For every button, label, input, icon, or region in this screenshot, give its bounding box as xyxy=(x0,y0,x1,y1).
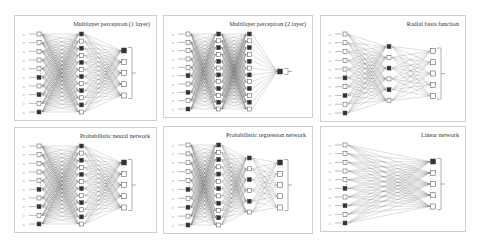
neuron-node xyxy=(217,100,221,104)
neuron-node xyxy=(80,103,84,107)
panel-linear: Linear networkoooooooooo⋮ xyxy=(320,126,466,232)
svg-text:o: o xyxy=(329,68,331,72)
neuron-node xyxy=(343,212,347,216)
neuron-node xyxy=(37,110,41,114)
neuron-node xyxy=(80,151,84,155)
neuron-node xyxy=(247,210,251,214)
svg-text:o: o xyxy=(172,206,174,210)
neuron-node xyxy=(37,49,41,53)
neuron-node xyxy=(343,41,347,45)
neuron-node xyxy=(37,222,41,226)
neuron-node xyxy=(217,165,221,169)
neuron-node xyxy=(247,73,251,77)
neuron-node xyxy=(122,160,127,165)
neuron-node xyxy=(80,32,84,36)
neuron-node xyxy=(247,93,251,97)
neuron-node xyxy=(247,32,251,36)
neuron-node xyxy=(186,40,190,44)
neuron-node xyxy=(217,216,221,220)
svg-text:o: o xyxy=(23,111,25,115)
neuron-node xyxy=(278,160,283,165)
svg-text:o: o xyxy=(329,41,331,45)
neuron-node xyxy=(217,73,221,77)
svg-text:o: o xyxy=(172,179,174,183)
neuron-node xyxy=(217,208,221,212)
svg-text:o: o xyxy=(172,215,174,219)
svg-text:o: o xyxy=(23,171,25,175)
neuron-node xyxy=(186,152,190,156)
neuron-node xyxy=(80,187,84,191)
svg-text:o: o xyxy=(172,83,174,87)
svg-text:o: o xyxy=(23,214,25,218)
neuron-node xyxy=(80,75,84,79)
svg-text:o: o xyxy=(329,187,331,191)
neuron-node xyxy=(278,194,283,199)
svg-text:o: o xyxy=(329,76,331,80)
neuron-node xyxy=(122,205,127,210)
neuron-node xyxy=(37,144,41,148)
neuron-node xyxy=(343,67,347,71)
svg-text:o: o xyxy=(23,67,25,71)
neuron-node xyxy=(186,161,190,165)
svg-text:o: o xyxy=(172,188,174,192)
neuron-node xyxy=(247,87,251,91)
svg-text:o: o xyxy=(23,41,25,45)
neuron-node xyxy=(217,194,221,198)
neuron-node xyxy=(387,55,391,59)
neuron-node xyxy=(186,196,190,200)
neuron-node xyxy=(186,82,190,86)
neuron-node xyxy=(122,82,127,87)
neuron-node xyxy=(80,194,84,198)
neuron-node xyxy=(186,205,190,209)
svg-text:o: o xyxy=(172,41,174,45)
neuron-node xyxy=(80,53,84,57)
neuron-node xyxy=(122,59,127,64)
neuron-node xyxy=(247,80,251,84)
panel-rbf: Radial basis functionoooooooooo⋮ xyxy=(320,15,466,122)
svg-text:o: o xyxy=(23,223,25,227)
neuron-node xyxy=(247,39,251,43)
neuron-node xyxy=(80,144,84,148)
neuron-node xyxy=(122,93,127,98)
svg-text:o: o xyxy=(23,59,25,63)
neuron-node xyxy=(217,158,221,162)
neuron-node xyxy=(217,187,221,191)
network-graph: oooooooooo⋮ xyxy=(321,127,467,233)
svg-text:o: o xyxy=(172,108,174,112)
svg-text:o: o xyxy=(329,50,331,54)
network-graph: oooooooooo⋮ xyxy=(15,128,158,234)
neuron-node xyxy=(37,101,41,105)
network-graph: oooooooooo⋮ xyxy=(164,16,314,119)
neuron-node xyxy=(431,159,436,164)
svg-text:o: o xyxy=(329,103,331,107)
neuron-node xyxy=(343,152,347,156)
neuron-node xyxy=(247,100,251,104)
neuron-node xyxy=(122,194,127,199)
neuron-node xyxy=(387,88,391,92)
neuron-node xyxy=(186,107,190,111)
neuron-node xyxy=(122,48,127,53)
neuron-node xyxy=(37,196,41,200)
neuron-node xyxy=(37,32,41,36)
neuron-node xyxy=(387,66,391,70)
svg-text:o: o xyxy=(329,144,331,148)
neuron-node xyxy=(80,82,84,86)
svg-text:o: o xyxy=(329,213,331,217)
neuron-node xyxy=(343,93,347,97)
neuron-node xyxy=(217,93,221,97)
svg-text:o: o xyxy=(23,205,25,209)
neuron-node xyxy=(431,49,436,54)
neuron-node xyxy=(80,201,84,205)
neuron-node xyxy=(37,58,41,62)
neuron-node xyxy=(80,96,84,100)
svg-text:o: o xyxy=(329,112,331,116)
svg-text:o: o xyxy=(23,162,25,166)
neuron-node xyxy=(80,67,84,71)
neuron-node xyxy=(431,94,436,99)
neuron-node xyxy=(343,58,347,62)
svg-text:o: o xyxy=(172,170,174,174)
neuron-node xyxy=(186,214,190,218)
neuron-node xyxy=(217,87,221,91)
neuron-node xyxy=(431,193,436,198)
svg-text:o: o xyxy=(329,33,331,37)
